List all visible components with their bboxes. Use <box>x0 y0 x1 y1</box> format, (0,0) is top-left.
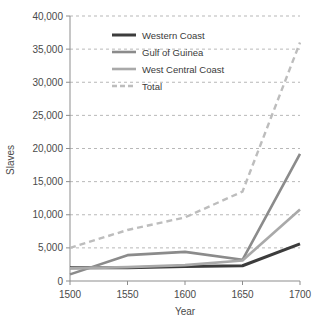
y-axis-ticks <box>66 16 70 281</box>
legend-label-west-central-coast: West Central Coast <box>142 64 225 75</box>
y-tick-label: 25,000 <box>32 110 63 121</box>
y-tick-label: 35,000 <box>32 44 63 55</box>
chart-canvas: 05,00010,00015,00020,00025,00030,00035,0… <box>0 0 322 321</box>
y-tick-label: 10,000 <box>32 209 63 220</box>
y-tick-label: 40,000 <box>32 11 63 22</box>
y-tick-label: 0 <box>57 276 63 287</box>
x-tick-label: 1700 <box>289 289 312 300</box>
x-axis-title: Year <box>175 306 196 317</box>
y-tick-label: 15,000 <box>32 176 63 187</box>
y-axis-tick-labels: 05,00010,00015,00020,00025,00030,00035,0… <box>32 11 63 287</box>
x-axis-tick-labels: 15001550160016501700 <box>59 289 312 300</box>
x-tick-label: 1500 <box>59 289 82 300</box>
legend-label-gulf-of-guinea: Gulf of Guinea <box>142 47 204 58</box>
y-tick-label: 20,000 <box>32 143 63 154</box>
y-axis-title: Slaves <box>5 145 16 175</box>
x-tick-label: 1600 <box>174 289 197 300</box>
line-chart: 05,00010,00015,00020,00025,00030,00035,0… <box>0 0 322 321</box>
x-tick-label: 1550 <box>116 289 139 300</box>
legend-label-western-coast: Western Coast <box>142 30 205 41</box>
x-axis-ticks <box>70 281 300 285</box>
series-layer <box>70 43 300 275</box>
legend-label-total: Total <box>142 81 162 92</box>
y-tick-label: 30,000 <box>32 77 63 88</box>
x-tick-label: 1650 <box>231 289 254 300</box>
y-tick-label: 5,000 <box>38 242 63 253</box>
